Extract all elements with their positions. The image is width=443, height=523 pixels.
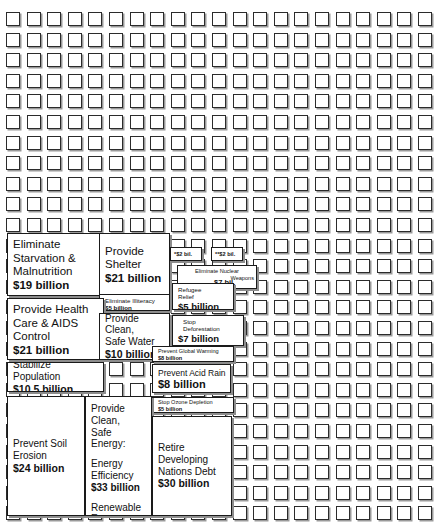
- callout-doublestar-2-bil: **$2 bil.: [211, 247, 243, 261]
- callout-stabilize-population: Stabilize Population $10.5 billion: [7, 362, 104, 392]
- callout-label-line: Starvation &: [13, 252, 100, 266]
- callout-label-line: Refugee: [178, 286, 230, 293]
- callout-sublabel-line: Renewable: [91, 502, 148, 514]
- callout-label-line: Relief: [178, 293, 230, 300]
- callout-sub-amount: $33 billion: [91, 482, 148, 494]
- callout-amount: $5 billion: [158, 406, 230, 413]
- callout-label-line: Provide Health: [13, 303, 100, 317]
- callout-amount: $8 billion: [158, 355, 230, 362]
- callout-label-line: Deforestation: [183, 325, 240, 332]
- callout-label-line: Developing: [158, 454, 228, 466]
- callout-label-line: Eliminate Nuclear: [180, 268, 254, 275]
- callout-sublabel-line: Energy: [91, 513, 148, 516]
- callout-amount: $24 billion: [13, 462, 81, 474]
- callout-provide-clean-safe-energy: Provide Clean, Safe Energy: Energy Effic…: [85, 396, 152, 516]
- callout-label-line: Care & AIDS: [13, 317, 100, 331]
- callout-label-line: Erosion: [13, 450, 81, 462]
- callout-stop-deforestation: Stop Deforestation $7 billion: [172, 315, 244, 346]
- callout-provide-health-care: Provide Health Care & AIDS Control $21 b…: [7, 298, 104, 360]
- callout-label-line: Stop: [183, 318, 240, 325]
- callout-refugee-relief: Refugee Relief $5 billion: [172, 283, 234, 310]
- callout-eliminate-starvation: Eliminate Starvation & Malnutrition $19 …: [7, 233, 104, 296]
- callout-provide-shelter: Provide Shelter $21 billion: [99, 233, 170, 296]
- callout-eliminate-illiteracy: Eliminate Illiteracy $5 billion: [99, 294, 170, 311]
- callout-label-line: Malnutrition: [13, 265, 100, 279]
- callout-label-line: Nations Debt: [158, 466, 228, 478]
- callout-amount: $5 billion: [178, 301, 230, 310]
- callout-amount: $7 billion: [178, 333, 240, 344]
- callout-boxes-layer: Eliminate Starvation & Malnutrition $19 …: [0, 0, 443, 523]
- callout-label-line: Prevent Acid Rain: [158, 367, 227, 377]
- callout-sublabel-line: Energy: [91, 458, 148, 470]
- callout-label-line: Eliminate: [13, 238, 100, 252]
- infographic-canvas: Eliminate Starvation & Malnutrition $19 …: [0, 0, 443, 523]
- callout-label-line: Safe Energy:: [91, 427, 148, 451]
- callout-label-line: Provide Clean,: [105, 313, 166, 336]
- callout-label-line: Prevent Global Warming: [158, 348, 230, 355]
- callout-label-line: Stabilize Population: [13, 362, 100, 383]
- callout-label-line: Eliminate Illiteracy: [105, 297, 166, 304]
- callout-amount: $19 billion: [13, 279, 100, 293]
- callout-amount: $8 billion: [158, 377, 227, 390]
- callout-label-line: Provide Shelter: [105, 244, 166, 271]
- callout-prevent-global-warming: Prevent Global Warming $8 billion: [152, 346, 234, 362]
- callout-stop-ozone-depletion: Stop Ozone Depletion $5 billion: [152, 397, 234, 413]
- callout-prevent-soil-erosion: Prevent Soil Erosion $24 billion: [7, 396, 85, 516]
- callout-label-line: Provide Clean,: [91, 403, 148, 427]
- callout-label-line: Prevent Soil: [13, 438, 81, 450]
- callout-prevent-acid-rain: Prevent Acid Rain $8 billion: [152, 364, 231, 393]
- callout-label-line: Control: [13, 330, 100, 344]
- callout-amount: *$2 bil.: [174, 251, 198, 258]
- callout-amount: $21 billion: [13, 344, 100, 358]
- callout-amount: $10.5 billion: [13, 383, 100, 392]
- callout-label-line: Stop Ozone Depletion: [158, 399, 230, 406]
- callout-label-line: Retire: [158, 442, 228, 454]
- callout-sublabel-line: Efficiency: [91, 470, 148, 482]
- callout-retire-developing-nations-debt: Retire Developing Nations Debt $30 billi…: [152, 416, 232, 516]
- callout-amount: **$2 bil.: [215, 251, 239, 258]
- callout-amount: $30 billion: [158, 478, 228, 490]
- callout-star-2-bil: *$2 bil.: [170, 247, 202, 261]
- callout-amount: $21 billion: [105, 271, 166, 285]
- callout-amount: $5 billion: [105, 304, 166, 311]
